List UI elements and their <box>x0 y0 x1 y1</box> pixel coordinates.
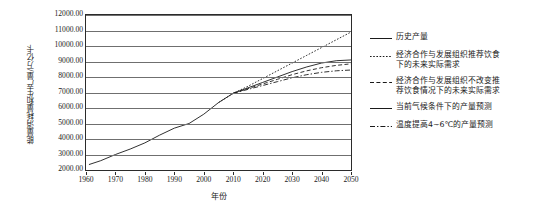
y-tick-label: 3000.00 <box>58 150 83 158</box>
x-tick-label: 1980 <box>137 175 152 184</box>
legend-line-swatch <box>370 52 396 61</box>
y-axis-tick-labels: 12000.0011000.0010000.009000.008000.0070… <box>38 14 84 171</box>
gridline <box>86 15 351 16</box>
legend-line-swatch <box>370 78 396 87</box>
legend-label: 当前气候条件下的产量预测 <box>396 102 492 112</box>
legend-label: 经济合作与发展组织不改变推 荐饮食情况下的未来实际需求 <box>396 76 500 95</box>
gridline <box>86 108 351 109</box>
x-axis-tick-labels: 1960197019801990200020102020203020402050 <box>85 172 352 184</box>
y-tick-label: 9000.00 <box>58 57 83 65</box>
legend-item: 经济合作与发展组织推荐饮食 下的未来实际需求 <box>370 50 546 69</box>
gridline <box>86 31 351 32</box>
x-tick-label: 2020 <box>255 175 270 184</box>
legend-item: 历史产量 <box>370 32 546 43</box>
y-axis-title: 能量消耗量和生产量/万亿卡 <box>22 14 38 174</box>
y-tick-label: 6000.00 <box>58 103 83 111</box>
gridline <box>86 62 351 63</box>
y-tick-label: 5000.00 <box>58 119 83 127</box>
y-tick-label: 12000.00 <box>55 10 83 18</box>
plot-area <box>85 14 352 171</box>
x-tick-label: 2040 <box>314 175 329 184</box>
legend-item: 温度提高4~6℃的产量预测 <box>370 120 546 131</box>
gridline <box>86 155 351 156</box>
gridline <box>86 77 351 78</box>
x-tick-label: 1960 <box>78 175 93 184</box>
legend-line-swatch <box>370 34 396 43</box>
legend-item: 经济合作与发展组织不改变推 荐饮食情况下的未来实际需求 <box>370 76 546 95</box>
gridline <box>86 124 351 125</box>
y-tick-label: 7000.00 <box>58 88 83 96</box>
legend-line-swatch <box>370 104 396 113</box>
x-axis-title: 年份 <box>85 190 352 201</box>
series-line <box>233 70 351 93</box>
x-tick-label: 2050 <box>343 175 358 184</box>
legend-item: 当前气候条件下的产量预测 <box>370 102 546 113</box>
y-tick-label: 8000.00 <box>58 72 83 80</box>
y-tick-label: 2000.00 <box>58 165 83 173</box>
x-tick-label: 1990 <box>167 175 182 184</box>
x-tick-label: 1970 <box>108 175 123 184</box>
legend-line-swatch <box>370 122 396 131</box>
gridline <box>86 46 351 47</box>
y-tick-label: 11000.00 <box>55 26 83 34</box>
gridline <box>86 93 351 94</box>
legend-label: 历史产量 <box>396 32 428 42</box>
legend-label: 温度提高4~6℃的产量预测 <box>396 120 493 130</box>
chart-figure: 能量消耗量和生产量/万亿卡 12000.0011000.0010000.0090… <box>0 0 547 208</box>
x-axis-title-label: 年份 <box>211 192 227 201</box>
legend-label: 经济合作与发展组织推荐饮食 下的未来实际需求 <box>396 50 500 69</box>
x-tick-label: 2010 <box>226 175 241 184</box>
gridline <box>86 139 351 140</box>
y-axis-title-label: 能量消耗量和生产量/万亿卡 <box>25 45 36 144</box>
x-tick-label: 2000 <box>196 175 211 184</box>
y-tick-label: 10000.00 <box>55 41 83 49</box>
x-tick-label: 2030 <box>285 175 300 184</box>
y-tick-label: 4000.00 <box>58 134 83 142</box>
chart-legend: 历史产量经济合作与发展组织推荐饮食 下的未来实际需求经济合作与发展组织不改变推 … <box>370 32 546 138</box>
